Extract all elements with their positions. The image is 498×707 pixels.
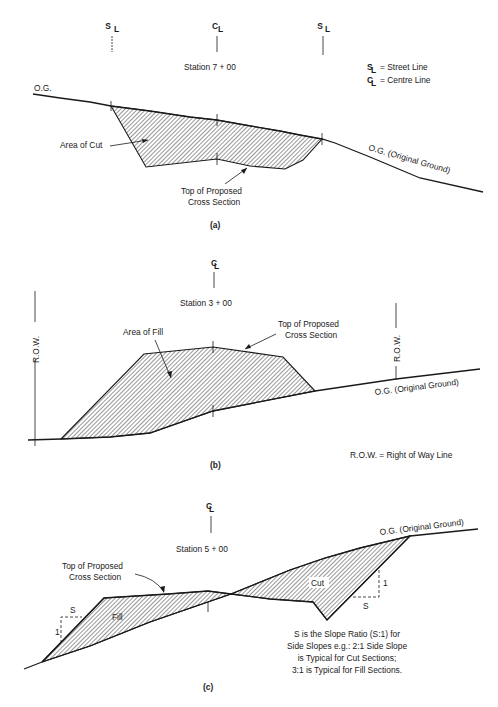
- svg-text:S: S: [105, 21, 111, 31]
- cut-label: Cut: [311, 578, 325, 588]
- slope-1-left: 1: [55, 627, 60, 637]
- slope-1-right: 1: [383, 578, 388, 588]
- row-left-label: R.O.W.: [31, 336, 41, 363]
- top-label-line1: Top of Proposed: [62, 561, 123, 571]
- top-label-line1: Top of Proposed: [278, 319, 339, 329]
- fill-region: [42, 591, 231, 662]
- svg-text:L: L: [218, 24, 223, 34]
- figure-c: C L Station 5 + 00 1 S 1 S Fill Cut Top …: [24, 501, 478, 692]
- slope-s-right: S: [363, 601, 369, 611]
- figure-b: C L Station 3 + 00 R.O.W. R.O.W. Area of…: [28, 258, 480, 470]
- svg-text:3:1 is Typical for Fill Sectio: 3:1 is Typical for Fill Sections.: [292, 665, 402, 675]
- figure-a: S L C L S L Station 7 + 00 S L = Street …: [33, 21, 483, 230]
- slope-s-left: S: [70, 605, 76, 615]
- svg-text:L: L: [214, 261, 219, 271]
- top-label-line2: Cross Section: [285, 330, 337, 340]
- centre-line-marker: C L: [212, 21, 223, 52]
- row-note: R.O.W. = Right of Way Line: [350, 450, 453, 460]
- legend-centre-line: = Centre Line: [380, 75, 431, 85]
- svg-text:L: L: [114, 24, 119, 34]
- slope-note: S is the Slope Ratio (S:1) for Side Slop…: [287, 629, 407, 675]
- top-label-line1: Top of Proposed: [181, 186, 242, 196]
- centre-line-marker: C L: [206, 501, 214, 533]
- caption-a: (a): [210, 220, 220, 230]
- og-right-label: O.G. (Original Ground): [367, 142, 451, 175]
- street-line-marker-right: S L: [317, 21, 330, 55]
- caption-c: (c): [203, 682, 213, 692]
- centre-line-marker: C L: [211, 258, 219, 288]
- svg-text:L: L: [371, 65, 376, 75]
- fill-label: Fill: [112, 612, 123, 622]
- station-label: Station 3 + 00: [180, 298, 232, 308]
- svg-text:S is the Slope Ratio (S:1) for: S is the Slope Ratio (S:1) for: [294, 629, 400, 639]
- legend: S L = Street Line C L = Centre Line: [367, 62, 431, 88]
- svg-text:S: S: [317, 21, 323, 31]
- svg-text:L: L: [371, 78, 376, 88]
- street-line-marker-left: S L: [105, 21, 119, 52]
- og-label: O.G. (Original Ground): [379, 517, 465, 537]
- svg-text:Side Slopes e.g.: 2:1 Side Slo: Side Slopes e.g.: 2:1 Side Slope: [287, 641, 407, 651]
- legend-street-line: = Street Line: [380, 62, 428, 72]
- area-of-cut-label: Area of Cut: [60, 140, 103, 150]
- original-ground-line: [24, 529, 478, 669]
- station-label: Station 5 + 00: [176, 544, 228, 554]
- area-of-fill-label: Area of Fill: [123, 327, 163, 337]
- top-label-line2: Cross Section: [69, 572, 121, 582]
- area-of-cut-region: [111, 106, 322, 169]
- station-label: Station 7 + 00: [184, 62, 236, 72]
- area-of-fill-region: [61, 347, 315, 439]
- og-left-label: O.G.: [34, 83, 52, 93]
- row-right-label: R.O.W.: [392, 335, 402, 362]
- top-label-line2: Cross Section: [188, 197, 240, 207]
- svg-text:L: L: [325, 24, 330, 34]
- caption-b: (b): [210, 460, 221, 470]
- svg-text:is Typical for Cut Sections;: is Typical for Cut Sections;: [298, 653, 397, 663]
- svg-text:L: L: [209, 504, 214, 514]
- road-cross-sections-diagram: S L C L S L Station 7 + 00 S L = Street …: [0, 0, 498, 707]
